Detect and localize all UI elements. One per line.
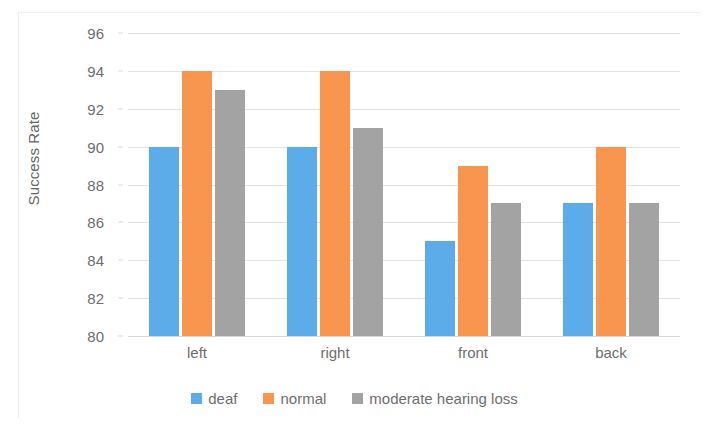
bar-front-normal[interactable] xyxy=(458,166,488,336)
chart-legend: deafnormalmoderate hearing loss xyxy=(0,390,709,407)
x-axis-tick-label-right: right xyxy=(285,344,385,361)
bar-group-front xyxy=(425,33,521,336)
legend-label-moderate-hearing-loss: moderate hearing loss xyxy=(369,390,517,407)
y-axis-tick-label: 96 xyxy=(87,25,104,42)
y-axis-tick-label: 94 xyxy=(87,62,104,79)
legend-item-normal[interactable]: normal xyxy=(263,390,326,407)
y-axis-tick-label: 82 xyxy=(87,290,104,307)
bar-back-deaf[interactable] xyxy=(563,203,593,336)
y-axis-tick-mark xyxy=(118,336,123,337)
x-axis-tick-labels: leftrightfrontback xyxy=(128,344,680,361)
bar-group-right xyxy=(287,33,383,336)
y-axis-tick-label: 92 xyxy=(87,100,104,117)
y-axis-tick-mark xyxy=(118,222,123,223)
bar-left-deaf[interactable] xyxy=(149,147,179,336)
bar-front-deaf[interactable] xyxy=(425,241,455,336)
y-axis-tick-label: 86 xyxy=(87,214,104,231)
plot-area xyxy=(128,33,680,336)
legend-swatch-moderate-hearing-loss xyxy=(352,393,363,404)
y-axis-tick-mark xyxy=(118,184,123,185)
y-axis-tick-mark xyxy=(118,146,123,147)
legend-item-moderate-hearing-loss[interactable]: moderate hearing loss xyxy=(352,390,517,407)
bar-groups xyxy=(128,33,680,336)
y-axis-tick-label: 88 xyxy=(87,176,104,193)
y-axis-tick-mark xyxy=(118,298,123,299)
bar-right-deaf[interactable] xyxy=(287,147,317,336)
bar-back-moderate-hearing-loss[interactable] xyxy=(629,203,659,336)
bar-front-moderate-hearing-loss[interactable] xyxy=(491,203,521,336)
gridline xyxy=(128,336,680,337)
y-axis-tick-label: 84 xyxy=(87,252,104,269)
y-axis-tick-label: 90 xyxy=(87,138,104,155)
bar-chart: Success Rate 969492908886848280 leftrigh… xyxy=(0,0,709,430)
y-axis-tick-label: 80 xyxy=(87,328,104,345)
y-axis-tick-mark xyxy=(118,70,123,71)
legend-label-deaf: deaf xyxy=(208,390,237,407)
bar-right-normal[interactable] xyxy=(320,71,350,336)
bar-left-moderate-hearing-loss[interactable] xyxy=(215,90,245,336)
y-axis-tick-mark xyxy=(118,33,123,34)
y-axis-tick-mark xyxy=(118,108,123,109)
bar-left-normal[interactable] xyxy=(182,71,212,336)
x-axis-tick-label-back: back xyxy=(561,344,661,361)
legend-label-normal: normal xyxy=(280,390,326,407)
x-axis-tick-label-left: left xyxy=(147,344,247,361)
bar-right-moderate-hearing-loss[interactable] xyxy=(353,128,383,336)
bar-group-back xyxy=(563,33,659,336)
legend-swatch-normal xyxy=(263,393,274,404)
bar-back-normal[interactable] xyxy=(596,147,626,336)
bar-group-left xyxy=(149,33,245,336)
y-axis-tick-labels: 969492908886848280 xyxy=(0,33,118,336)
x-axis-tick-label-front: front xyxy=(423,344,523,361)
legend-item-deaf[interactable]: deaf xyxy=(191,390,237,407)
legend-swatch-deaf xyxy=(191,393,202,404)
y-axis-tick-mark xyxy=(118,260,123,261)
